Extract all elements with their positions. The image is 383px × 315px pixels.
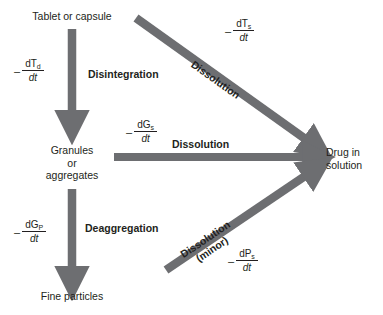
node-granules-line-2: or xyxy=(67,157,76,169)
rate-tablet-dissol-den: dt xyxy=(233,31,254,43)
rate-fines-dissol-sub: s xyxy=(251,253,255,260)
deaggregation-text: Deaggregation xyxy=(85,222,159,234)
node-fine-particles: Fine particles xyxy=(22,290,122,303)
node-tablet-or-capsule: Tablet or capsule xyxy=(14,10,130,23)
rate-granule-deagg-sign: – xyxy=(14,226,22,238)
rate-tablet-disint-sign: – xyxy=(14,65,22,77)
rate-granule-deagg-num: dG xyxy=(25,219,38,230)
rate-tablet-disintegration: –dTddt xyxy=(14,58,44,83)
rate-fines-dissol-sign: – xyxy=(228,255,236,267)
process-label-dissolution-granules: Dissolution xyxy=(172,138,229,150)
rate-fines-dissolution: –dPsdt xyxy=(228,248,258,273)
node-tablet-line-1: Tablet or capsule xyxy=(32,10,111,22)
process-label-disintegration: Disintegration xyxy=(88,68,159,80)
node-granules-line-3: aggregates xyxy=(46,169,99,181)
rate-granule-deagg-sub: P xyxy=(38,224,43,231)
node-fines-line-1: Fine particles xyxy=(41,290,103,302)
process-label-deaggregation: Deaggregation xyxy=(85,222,159,234)
rate-granule-dissol-den: dt xyxy=(134,132,157,144)
rate-tablet-disint-den: dt xyxy=(22,71,44,83)
rate-granule-deagg-den: dt xyxy=(22,232,46,244)
rate-tablet-dissol-sub: s xyxy=(248,23,252,30)
rate-tablet-dissol-sign: – xyxy=(225,25,233,37)
node-granules-line-1: Granules xyxy=(51,144,94,156)
rate-tablet-disint-sub: d xyxy=(37,63,41,70)
dissolution-granules-text: Dissolution xyxy=(172,138,229,150)
rate-tablet-dissolution: –dTsdt xyxy=(225,18,254,43)
dissolution-pathway-diagram: Tablet or capsule Granules or aggregates… xyxy=(0,0,383,315)
rate-fines-dissol-num: dP xyxy=(239,248,251,259)
rate-tablet-disint-num: dT xyxy=(25,58,37,69)
rate-fines-dissol-den: dt xyxy=(236,261,258,273)
node-solution-line-1: Drug in xyxy=(326,146,360,158)
disintegration-text: Disintegration xyxy=(88,68,159,80)
rate-granule-dissolution: –dGsdt xyxy=(126,119,157,144)
rate-granule-dissol-sub: s xyxy=(150,124,154,131)
rate-tablet-dissol-num: dT xyxy=(236,18,248,29)
node-granules-or-aggregates: Granules or aggregates xyxy=(22,144,122,182)
node-solution-line-2: solution xyxy=(326,159,362,171)
node-drug-in-solution: Drug in solution xyxy=(326,146,382,171)
rate-granule-dissol-num: dG xyxy=(137,119,150,130)
rate-granule-dissol-sign: – xyxy=(126,126,134,138)
rate-granule-deaggregation: –dGPdt xyxy=(14,219,46,244)
